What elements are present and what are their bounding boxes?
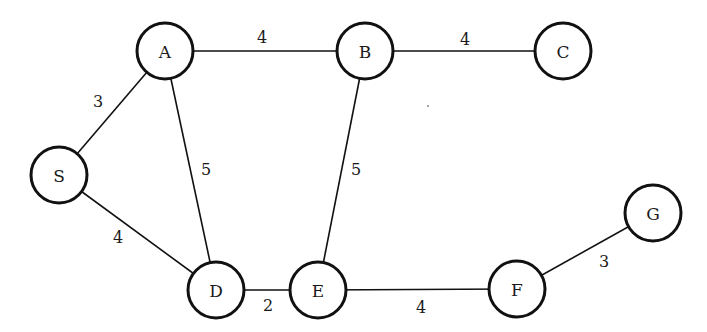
node-a: A — [137, 23, 193, 79]
node-label: F — [511, 280, 523, 300]
node-label: G — [646, 204, 660, 224]
edge-weight-f-g: 3 — [599, 252, 609, 271]
edge-weight-s-d: 4 — [113, 228, 123, 247]
graph-diagram: 443554243 ABCSDEFG — [0, 0, 707, 332]
node-b: B — [337, 23, 393, 79]
node-s: S — [31, 147, 87, 203]
edge-weight-d-e: 2 — [263, 296, 273, 315]
node-f: F — [489, 261, 545, 317]
node-e: E — [290, 262, 346, 318]
node-label: A — [158, 42, 172, 62]
edge-weight-a-d: 5 — [201, 160, 211, 179]
edge-weight-b-e: 5 — [351, 160, 361, 179]
edge-weight-s-a: 3 — [93, 92, 103, 111]
stray-dot — [427, 105, 429, 107]
node-label: B — [359, 42, 372, 62]
node-label: E — [312, 281, 324, 301]
edge-weight-b-c: 4 — [460, 30, 470, 49]
edge-weight-a-b: 4 — [257, 28, 267, 47]
node-d: D — [188, 262, 244, 318]
edge-weight-e-f: 4 — [416, 298, 426, 317]
node-g: G — [625, 185, 681, 241]
node-c: C — [535, 23, 591, 79]
edge-e-f — [318, 289, 517, 290]
node-label: D — [209, 281, 223, 301]
node-label: S — [53, 166, 65, 186]
node-label: C — [556, 42, 569, 62]
